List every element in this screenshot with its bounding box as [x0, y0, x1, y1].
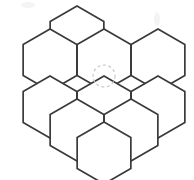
- scan-artifact-mark: [154, 12, 160, 26]
- honeycomb-canvas: [0, 0, 194, 180]
- hexagon-layer: [23, 6, 185, 180]
- scan-artifact-mark: [21, 2, 35, 8]
- honeycomb-figure: Honeycomb hexagon grid: [0, 0, 194, 180]
